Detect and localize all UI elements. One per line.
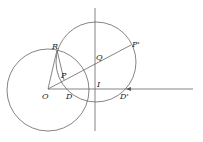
label-d: D [65, 92, 73, 101]
circle-centered-o [7, 49, 89, 131]
label-q: Q [96, 53, 103, 62]
label-o: O [42, 92, 49, 101]
segment-o-r [48, 50, 57, 89]
label-p: P [60, 71, 67, 80]
line-o-p-prime [48, 45, 131, 89]
label-r: R [51, 42, 58, 51]
label-p-prime: P' [131, 40, 140, 49]
label-d-prime: D' [119, 92, 129, 101]
circle-centered-q [56, 22, 136, 102]
geometry-diagram: R P Q P' O D I D' [0, 0, 203, 142]
label-i: I [96, 80, 101, 89]
